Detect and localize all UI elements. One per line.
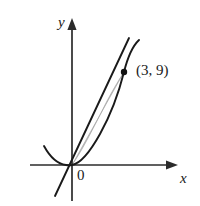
- x-axis-arrowhead: [166, 160, 178, 169]
- tangent-line: [55, 38, 129, 196]
- y-axis-label: y: [58, 15, 65, 30]
- shaded-region: [72, 72, 124, 165]
- tangent-point-marker: [121, 69, 127, 75]
- y-axis-arrowhead: [67, 18, 76, 30]
- figure-container: y x 0 (3, 9): [0, 0, 200, 206]
- origin-label: 0: [77, 168, 85, 183]
- tangent-point-label: (3, 9): [136, 63, 169, 78]
- parabola-curve: [44, 40, 139, 165]
- graph-canvas: [0, 0, 200, 206]
- x-axis-label: x: [180, 171, 187, 186]
